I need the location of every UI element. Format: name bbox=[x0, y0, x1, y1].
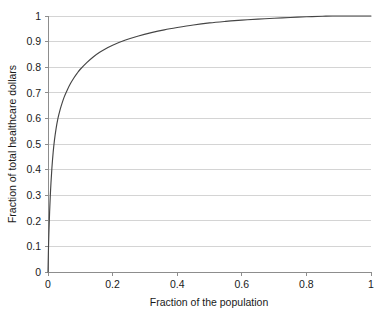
y-tick-label: 0.1 bbox=[26, 240, 41, 252]
y-tick-label: 0.4 bbox=[26, 163, 41, 175]
y-tick-label: 0.3 bbox=[26, 189, 41, 201]
x-tick-label: 0.6 bbox=[234, 278, 249, 290]
healthcare-spending-line-chart: 00.10.20.30.40.50.60.70.80.91 00.20.40.6… bbox=[0, 0, 381, 314]
y-tick-label: 0.2 bbox=[26, 215, 41, 227]
y-tick-label: 0.8 bbox=[26, 61, 41, 73]
x-tick-label: 0.4 bbox=[170, 278, 185, 290]
y-tick-label: 0.5 bbox=[26, 138, 41, 150]
x-tick-label: 0 bbox=[45, 278, 51, 290]
y-tick-label: 0 bbox=[35, 266, 41, 278]
y-tick-label: 0.7 bbox=[26, 87, 41, 99]
y-tick-label: 1 bbox=[35, 10, 41, 22]
y-tick-label: 0.9 bbox=[26, 35, 41, 47]
y-tick-label: 0.6 bbox=[26, 112, 41, 124]
x-tick-label: 0.2 bbox=[105, 278, 120, 290]
x-axis-tick-labels: 00.20.40.60.81 bbox=[45, 278, 374, 290]
y-axis-tick-labels: 00.10.20.30.40.50.60.70.80.91 bbox=[26, 10, 41, 278]
y-axis-title: Fraction of total healthcare dollars bbox=[6, 65, 18, 223]
x-tick-label: 1 bbox=[368, 278, 374, 290]
x-axis-title: Fraction of the population bbox=[150, 296, 269, 308]
x-tick-label: 0.8 bbox=[299, 278, 314, 290]
chart-container: 00.10.20.30.40.50.60.70.80.91 00.20.40.6… bbox=[0, 0, 381, 314]
tick-marks-group bbox=[45, 16, 372, 276]
